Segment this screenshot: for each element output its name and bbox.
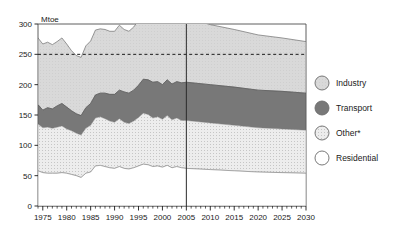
- legend-item: Other*: [315, 126, 361, 140]
- y-axis-tick-labels: 050100150200250300: [19, 20, 33, 211]
- legend-swatch-transport: [315, 101, 329, 115]
- x-tick-label: 1990: [106, 213, 124, 222]
- x-tick-label: 2030: [297, 213, 315, 222]
- x-tick-label: 2005: [177, 213, 195, 222]
- x-tick-label: 2025: [273, 213, 291, 222]
- x-axis-ticks: [43, 206, 306, 211]
- stacked-area-chart: 050100150200250300 197519801985199019952…: [0, 0, 395, 240]
- y-tick-label: 150: [19, 111, 33, 120]
- y-tick-label: 0: [28, 202, 33, 211]
- x-tick-label: 1985: [82, 213, 100, 222]
- x-tick-label: 1980: [58, 213, 76, 222]
- legend-label: Transport: [336, 103, 373, 113]
- x-tick-label: 2000: [154, 213, 172, 222]
- x-axis-tick-labels: 1975198019851990199520002005201020152020…: [34, 213, 316, 222]
- legend-item: Industry: [315, 76, 367, 90]
- legend-label: Residential: [336, 153, 378, 163]
- legend-label: Other*: [336, 128, 361, 138]
- legend-label: Industry: [336, 78, 367, 88]
- legend-swatch-residential: [315, 151, 329, 165]
- y-axis-ticks: [35, 24, 39, 206]
- y-tick-label: 300: [19, 20, 33, 29]
- x-tick-label: 2010: [201, 213, 219, 222]
- legend-item: Transport: [315, 101, 373, 115]
- legend-swatch-industry: [315, 76, 329, 90]
- x-tick-label: 2020: [249, 213, 267, 222]
- chart-container: 050100150200250300 197519801985199019952…: [0, 0, 395, 240]
- legend-item: Residential: [315, 151, 378, 165]
- y-tick-label: 200: [19, 81, 33, 90]
- y-axis-unit-label: Mtoe: [41, 15, 59, 24]
- y-tick-label: 50: [23, 172, 32, 181]
- x-tick-label: 1995: [130, 213, 148, 222]
- x-tick-label: 1975: [34, 213, 52, 222]
- legend-swatch-other: [315, 126, 329, 140]
- chart-legend: IndustryTransportOther*Residential: [315, 76, 378, 165]
- y-tick-label: 100: [19, 141, 33, 150]
- x-tick-label: 2015: [225, 213, 243, 222]
- y-tick-label: 250: [19, 50, 33, 59]
